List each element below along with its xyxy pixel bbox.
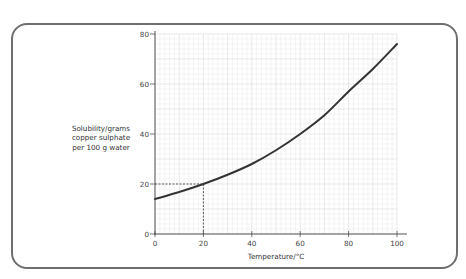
y-tick-label: 80 (140, 30, 150, 39)
x-tick-label: 0 (153, 239, 158, 248)
x-axis-label: Temperature/°C (247, 252, 305, 261)
y-tick-label: 20 (140, 180, 150, 189)
y-tick-label: 0 (144, 230, 149, 239)
x-tick-label: 100 (390, 239, 404, 248)
grid (155, 34, 397, 234)
x-tick-label: 60 (296, 239, 306, 248)
y-tick-label: 60 (140, 80, 150, 89)
solubility-chart: 020406080100020406080 Temperature/°C (0, 0, 466, 279)
y-tick-label: 40 (140, 130, 150, 139)
x-tick-label: 40 (247, 239, 257, 248)
x-tick-label: 80 (344, 239, 354, 248)
x-tick-label: 20 (199, 239, 209, 248)
